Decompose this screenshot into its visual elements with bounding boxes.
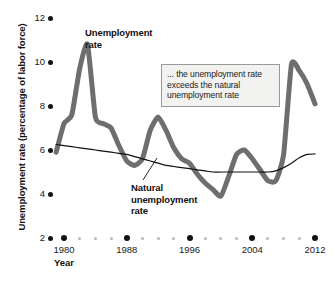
x-tick-dot-major-1980 (61, 235, 67, 241)
x-tick-dot-minor-2010 (298, 237, 301, 240)
x-tick-dot-minor-1990 (141, 237, 144, 240)
natural-unemployment-rate-label: Natural unemployment rate (131, 182, 197, 217)
x-tick-label-1988: 1988 (107, 244, 147, 255)
callout-line1: ... the unemployment (167, 69, 245, 79)
x-tick-dot-minor-2008 (282, 237, 285, 240)
x-tick-dot-minor-1998 (204, 237, 207, 240)
unemployment-rate-label-line2: rate (85, 39, 102, 50)
x-tick-dot-minor-1986 (110, 237, 113, 240)
natural-rate-label-line1: Natural (131, 182, 163, 193)
plot-area (0, 0, 334, 283)
x-tick-label-1980: 1980 (44, 244, 84, 255)
x-tick-label-2004: 2004 (232, 244, 272, 255)
callout-line3: unemployment rate (167, 90, 239, 100)
unemployment-rate-label-line1: Unemployment (85, 27, 152, 38)
x-axis-title: Year (44, 257, 84, 268)
x-tick-label-1996: 1996 (170, 244, 210, 255)
x-tick-label-2012: 2012 (295, 244, 334, 255)
natural-rate-label-line3: rate (131, 205, 148, 216)
x-tick-dot-minor-1982 (78, 237, 81, 240)
x-tick-dot-major-1996 (187, 235, 193, 241)
x-tick-dot-minor-2002 (235, 237, 238, 240)
natural-rate-label-line2: unemployment (131, 194, 197, 205)
x-tick-dot-major-1988 (124, 235, 130, 241)
x-tick-dot-minor-1994 (172, 237, 175, 240)
x-tick-dot-minor-1984 (94, 237, 97, 240)
x-tick-dot-minor-1992 (157, 237, 160, 240)
unemployment-rate-chart: Unemployment rate (percentage of labor f… (0, 0, 334, 283)
callout-annotation-box: ... the unemployment rate exceeds the na… (161, 64, 280, 107)
unemployment-rate-label: Unemployment rate (85, 27, 152, 50)
x-tick-dot-major-2012 (312, 235, 318, 241)
